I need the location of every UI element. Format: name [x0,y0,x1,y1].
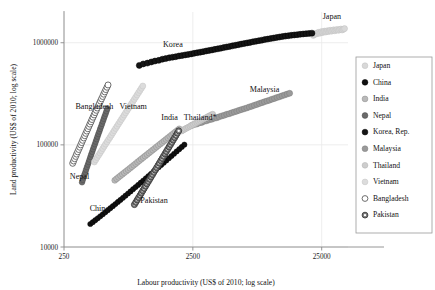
legend-marker-icon [362,113,368,119]
point-annotations: JapanKoreaMalaysiaBangladeshVietnamIndia… [70,12,341,213]
annotation-bangladesh: Bangladesh [75,102,113,111]
annotation-thailand: Thailand* [184,113,217,122]
legend-marker-icon [362,96,368,102]
data-series-layer [70,26,348,227]
y-axis-title: Land productivity (US$ of 2010; log scal… [9,63,18,195]
legend-label: Japan [373,61,390,70]
legend-label: Nepal [373,111,391,120]
legend[interactable]: JapanChinaIndiaNepalKorea, Rep.MalaysiaT… [356,57,432,233]
data-point [105,82,111,88]
series-japan [310,26,347,39]
annotation-india: India [161,113,178,122]
legend-marker-icon [362,146,368,152]
y-tick-label: 100000 [36,141,58,149]
legend-marker-core-icon [364,214,366,216]
annotation-malaysia: Malaysia [250,85,280,94]
legend-label: Vietnam [373,177,399,186]
legend-label: Thailand [373,161,400,170]
legend-label: Korea, Rep. [373,127,410,136]
scatter-plot-svg: 100001000001000000250250025000 JapanKore… [0,0,435,290]
series-malaysia [189,90,293,128]
x-tick-label: 250 [59,253,70,261]
legend-label: Malaysia [373,144,401,153]
legend-label: China [373,78,392,87]
annotation-japan: Japan [323,12,341,21]
x-axis-title: Labour productivity (US$ of 2010; log sc… [137,278,275,287]
data-point [342,26,348,32]
annotation-china: China [90,204,110,213]
y-tick-label: 10000 [40,244,58,252]
legend-label: Bangladesh [373,194,409,203]
y-tick-label: 1000000 [33,39,59,47]
legend-marker-icon [362,162,368,168]
data-point [287,90,293,96]
chart-figure: 100001000001000000250250025000 JapanKore… [0,0,435,290]
x-tick-label: 2500 [186,253,201,261]
data-point-core [178,130,180,132]
legend-marker-icon [362,196,368,202]
data-point [182,142,187,147]
annotation-nepal: Nepal [70,172,90,181]
legend-label: Pakistan [373,210,399,219]
data-point [140,83,146,89]
legend-marker-icon [362,129,368,135]
legend-marker-icon [362,179,368,185]
annotation-korea: Korea [163,40,183,49]
annotation-pakistan: Pakistan [140,196,167,205]
annotation-vietnam: Vietnam [119,102,147,111]
legend-marker-icon [362,79,368,85]
legend-label: India [373,94,389,103]
x-tick-label: 25000 [313,253,331,261]
data-point [309,30,315,36]
axis-titles: Labour productivity (US$ of 2010; log sc… [9,63,275,287]
legend-marker-icon [362,63,368,69]
